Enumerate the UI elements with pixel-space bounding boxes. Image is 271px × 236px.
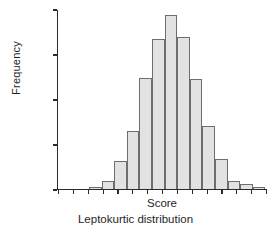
histogram-bar bbox=[89, 187, 102, 190]
y-axis-label: Frequency bbox=[10, 8, 22, 128]
histogram-bar bbox=[127, 131, 140, 190]
histogram-bar bbox=[102, 181, 115, 189]
histogram-bar bbox=[190, 79, 203, 189]
histogram-bar bbox=[165, 15, 178, 190]
histogram-bar bbox=[152, 39, 165, 189]
histogram-bar bbox=[253, 187, 266, 189]
histogram-bar bbox=[228, 181, 241, 189]
x-axis-tick bbox=[251, 190, 252, 194]
x-axis-tick bbox=[221, 190, 222, 194]
x-axis-tick bbox=[147, 190, 148, 194]
histogram-bars bbox=[57, 10, 267, 190]
x-axis-tick bbox=[177, 190, 178, 194]
x-axis-tick bbox=[192, 190, 193, 194]
x-axis-tick bbox=[266, 190, 267, 194]
histogram-bar bbox=[202, 126, 215, 189]
histogram-figure: Frequency 0500100015002000 Score Leptoku… bbox=[0, 0, 271, 236]
x-axis-tick bbox=[132, 190, 133, 194]
plot-area bbox=[57, 10, 267, 190]
histogram-bar bbox=[114, 161, 127, 190]
x-axis-tick bbox=[88, 190, 89, 194]
x-axis-tick bbox=[73, 190, 74, 194]
x-axis-tick bbox=[103, 190, 104, 194]
histogram-bar bbox=[177, 37, 190, 189]
histogram-bar bbox=[215, 159, 228, 190]
x-axis-tick bbox=[117, 190, 118, 194]
x-axis-tick bbox=[207, 190, 208, 194]
histogram-bar bbox=[139, 78, 152, 190]
x-axis-tick bbox=[236, 190, 237, 194]
figure-caption: Leptokurtic distribution bbox=[0, 213, 271, 225]
x-axis-tick bbox=[58, 190, 59, 194]
x-axis-label: Score bbox=[57, 197, 267, 209]
x-axis-tick bbox=[162, 190, 163, 194]
histogram-bar bbox=[240, 184, 253, 189]
